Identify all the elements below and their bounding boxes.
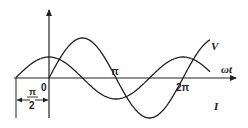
phase-fraction-numerator: π	[29, 87, 36, 97]
pi-tick-label: π	[111, 66, 119, 77]
current-label: I	[213, 100, 219, 112]
origin-label: 0	[41, 82, 47, 93]
voltage-label: V	[211, 40, 220, 52]
phase-fraction-denominator: 2	[29, 100, 35, 111]
waveform-diagram: 0 π 2π ωt V I π 2	[0, 0, 248, 128]
two-pi-tick-label: 2π	[176, 82, 190, 93]
x-axis-label: ωt	[221, 63, 233, 75]
